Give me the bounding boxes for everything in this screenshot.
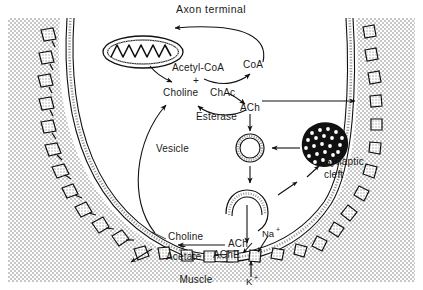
- label-potassium: K +: [246, 274, 258, 287]
- muscle-cell: [371, 119, 382, 130]
- label-chac: ChAc: [210, 87, 235, 98]
- muscle-cell: [370, 95, 382, 107]
- label-synaptic-cleft-line1: Synaptic: [324, 156, 364, 167]
- label-ach-bottom: ACh: [228, 238, 248, 249]
- label-esterase: Esterase: [196, 111, 237, 122]
- muscle-cell: [271, 248, 284, 260]
- muscle-cell: [294, 244, 307, 257]
- label-ache: AChE: [213, 249, 240, 260]
- label-sodium-charge: +: [276, 226, 280, 233]
- mitochondrion-icon: [103, 36, 183, 68]
- label-ach-top: ACh: [240, 102, 260, 113]
- diagram-svg: Axon terminal: [0, 0, 423, 290]
- muscle-cell: [365, 48, 378, 61]
- label-potassium-charge: +: [254, 274, 258, 281]
- page-title: Axon terminal: [176, 3, 246, 15]
- label-acetate: Acetate: [166, 251, 202, 262]
- label-choline-top: Choline: [163, 87, 199, 98]
- label-potassium-text: K: [246, 276, 253, 287]
- muscle-cell: [249, 250, 261, 262]
- label-acetyl-coa: Acetyl-CoA: [172, 62, 224, 73]
- label-coa: CoA: [243, 59, 263, 70]
- label-sodium-text: Na: [262, 228, 275, 239]
- label-vesicle: Vesicle: [156, 143, 189, 154]
- label-synaptic-cleft-line2: cleft: [324, 169, 343, 180]
- synaptic-vesicle-icon: [236, 134, 264, 162]
- label-muscle: Muscle: [180, 274, 213, 285]
- muscle-cell: [369, 142, 381, 154]
- figure-canvas: Axon terminal: [0, 0, 423, 290]
- label-plus-top: +: [193, 75, 199, 86]
- muscle-cell: [368, 71, 381, 84]
- muscle-cell: [363, 25, 376, 38]
